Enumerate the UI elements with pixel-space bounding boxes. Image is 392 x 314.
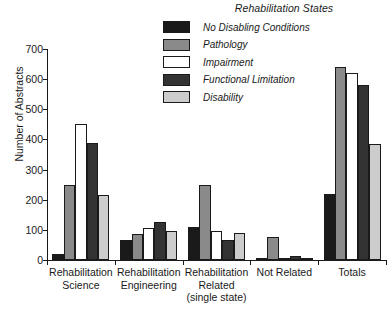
bar <box>143 228 154 260</box>
x-axis-category-line: (single state) <box>173 291 261 304</box>
plot-area: Number of Abstracts 01002003004005006007… <box>0 0 392 314</box>
y-tick-mark <box>43 200 47 201</box>
y-tick-label: 600 <box>17 73 43 85</box>
y-tick-mark <box>43 230 47 231</box>
bar <box>290 256 301 260</box>
bar <box>234 233 245 260</box>
bar <box>52 254 63 260</box>
y-tick-label: 100 <box>17 224 43 236</box>
bar <box>256 258 267 260</box>
y-tick-label: 400 <box>17 133 43 145</box>
x-tick-mark <box>386 261 387 265</box>
bar <box>335 67 346 260</box>
bar <box>154 222 165 260</box>
bar <box>98 195 109 260</box>
y-tick-mark <box>43 139 47 140</box>
y-tick-label: 500 <box>17 103 43 115</box>
chart-root: Rehabilitation States No Disabling Condi… <box>0 0 392 314</box>
bar <box>87 143 98 260</box>
y-tick-label: 0 <box>17 254 43 266</box>
bar <box>211 231 222 260</box>
bar <box>279 258 290 260</box>
x-axis-category-label: Totals <box>308 266 392 279</box>
x-tick-mark <box>183 261 184 265</box>
y-tick-label: 300 <box>17 164 43 176</box>
bar <box>324 194 335 260</box>
x-tick-mark <box>318 261 319 265</box>
y-tick-label: 200 <box>17 194 43 206</box>
bar <box>267 237 278 260</box>
x-axis-category-line: Totals <box>308 266 392 279</box>
bar <box>301 258 312 260</box>
bar <box>369 144 380 260</box>
bar <box>64 185 75 260</box>
bar <box>199 185 210 260</box>
y-tick-mark <box>43 109 47 110</box>
y-axis-line <box>47 49 48 261</box>
x-axis-line <box>47 260 387 261</box>
y-tick-mark <box>43 49 47 50</box>
bar <box>358 85 369 260</box>
bar <box>188 227 199 260</box>
bar <box>222 240 233 260</box>
bar <box>120 240 131 260</box>
y-tick-label: 700 <box>17 43 43 55</box>
x-axis-category-line: Related <box>173 279 261 292</box>
x-tick-mark <box>115 261 116 265</box>
y-tick-mark <box>43 170 47 171</box>
bar <box>346 73 357 260</box>
x-tick-mark <box>47 261 48 265</box>
bar <box>166 231 177 260</box>
bar <box>132 234 143 260</box>
x-tick-mark <box>250 261 251 265</box>
bar <box>75 124 86 260</box>
y-tick-mark <box>43 79 47 80</box>
